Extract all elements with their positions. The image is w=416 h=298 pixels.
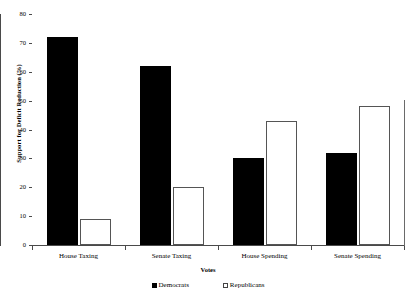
y-axis-tick-label: 60 (20, 67, 27, 76)
x-axis-category-label: House Taxing (32, 252, 125, 260)
legend-item: Democrats (152, 281, 189, 289)
bar-republicans-senate-taxing (173, 187, 204, 245)
legend-label: Democrats (159, 281, 189, 289)
bar-democrats-house-taxing (47, 37, 78, 245)
y-axis-tick-label: 0 (23, 240, 26, 249)
y-axis-tick: 0 (0, 245, 32, 246)
x-axis-tick (311, 246, 312, 250)
bar-republicans-house-taxing (80, 219, 111, 245)
chart-legend: DemocratsRepublicans (0, 281, 416, 289)
legend-item: Republicans (223, 281, 265, 289)
bar-democrats-senate-spending (326, 153, 357, 245)
bar-democrats-senate-taxing (140, 66, 171, 245)
legend-label: Republicans (230, 281, 265, 289)
tick-mark (29, 43, 32, 44)
x-axis-category-label: Senate Spending (311, 252, 404, 260)
y-axis-tick: 30 (0, 158, 32, 159)
y-axis-tick: 40 (0, 130, 32, 131)
x-axis-title: Votes (0, 266, 416, 273)
x-axis-category-label: House Spending (218, 252, 311, 260)
tick-mark (29, 72, 32, 73)
tick-mark (29, 130, 32, 131)
y-axis-tick: 50 (0, 101, 32, 102)
y-axis-tick-label: 10 (20, 211, 27, 220)
open-square-icon (223, 283, 228, 288)
tick-mark (29, 187, 32, 188)
bar-democrats-house-spending (233, 158, 264, 245)
y-axis-tick: 20 (0, 187, 32, 188)
plot-right-border (404, 100, 405, 246)
y-axis-tick: 60 (0, 72, 32, 73)
y-axis-title: Support for Deficit Reduction (%) (15, 34, 22, 194)
tick-mark (29, 14, 32, 15)
bar-republicans-house-spending (266, 121, 297, 245)
x-axis-category-label: Senate Taxing (125, 252, 218, 260)
y-axis-tick-label: 20 (20, 182, 27, 191)
tick-mark (29, 216, 32, 217)
y-axis-tick-label: 50 (20, 96, 27, 105)
x-axis-tick (32, 246, 33, 250)
bar-chart: Support for Deficit Reduction (%) 010203… (0, 0, 416, 298)
y-axis-tick: 80 (0, 14, 32, 15)
x-axis-tick (218, 246, 219, 250)
x-axis-tick (404, 246, 405, 250)
tick-mark (29, 158, 32, 159)
bar-republicans-senate-spending (359, 106, 390, 245)
y-axis-tick-label: 70 (20, 38, 27, 47)
y-axis-tick: 10 (0, 216, 32, 217)
y-axis-tick-label: 40 (20, 125, 27, 134)
tick-mark (29, 101, 32, 102)
x-axis-tick (125, 246, 126, 250)
y-axis-tick-label: 30 (20, 153, 27, 162)
y-axis-tick-label: 80 (20, 9, 27, 18)
y-axis-tick: 70 (0, 43, 32, 44)
filled-square-icon (152, 283, 157, 288)
